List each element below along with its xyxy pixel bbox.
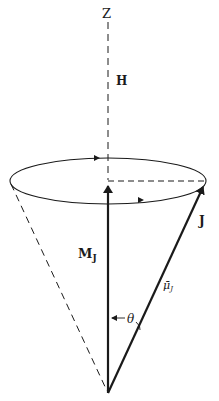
theta-label: θ — [127, 312, 135, 326]
j-vector-arrow — [108, 187, 203, 393]
mu-j-label: μ̄J — [163, 279, 174, 293]
mu-j-label-main: μ̄ — [163, 279, 170, 292]
mj-label-subscript: J — [91, 253, 96, 263]
j-label: J — [198, 214, 205, 228]
z-axis-label: Z — [102, 6, 111, 21]
cone-edge-dashed-line — [11, 184, 107, 391]
mj-label: MJ — [78, 246, 97, 263]
field-label-h: H — [116, 74, 127, 88]
precession-diagram: Z H MJ J μ̄J θ — [0, 0, 219, 401]
precession-direction-arrow-top — [94, 155, 100, 161]
mj-label-main: M — [78, 246, 92, 261]
